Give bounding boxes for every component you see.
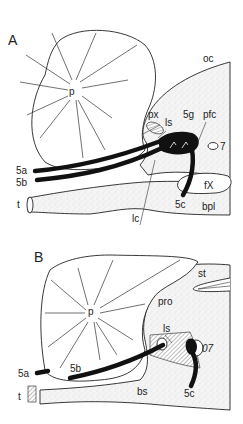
label-ls: ls [165,117,172,128]
label-fX: fX [204,180,214,191]
trabecula-end [27,197,33,213]
label-oc: oc [203,53,214,64]
label-5b: 5b [16,177,28,188]
label-5c: 5c [175,199,186,210]
panel-b-label: B [34,249,43,265]
label-pfc: pfc [203,109,216,120]
trabecula-end-b [28,386,36,402]
label-lc: lc [132,213,139,224]
label-p-b: p [88,306,94,317]
label-pro: pro [158,296,173,307]
label-5b-b: 5b [70,363,82,374]
label-px: px [148,109,159,120]
label-07: 07 [202,343,214,354]
label-p: p [69,86,75,97]
label-bpl: bpl [202,201,215,212]
label-7: 7 [220,141,226,152]
label-5a: 5a [16,165,28,176]
label-t-b: t [18,391,21,402]
anatomical-figure: A p oc px ls [0,0,243,424]
panel-a-label: A [8,32,18,48]
label-5g: 5g [183,109,194,120]
label-bs: bs [137,386,148,397]
label-5c-b: 5c [184,388,195,399]
label-5a-b: 5a [18,368,30,379]
nerve-5a-b [37,371,48,373]
panel-a: A p oc px ls [8,30,231,225]
label-ls-b: ls [163,323,170,334]
facial-foramen [208,143,218,150]
label-st: st [198,268,206,279]
label-t: t [17,199,20,210]
panel-b: B st p pro ls [18,249,230,410]
